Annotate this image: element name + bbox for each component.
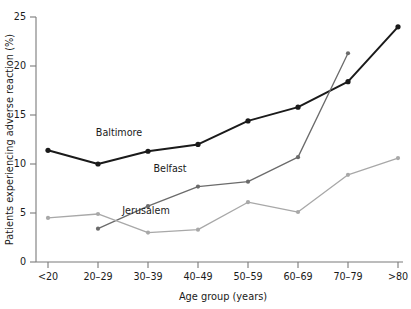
series-belfast — [96, 51, 350, 231]
chart-figure: 0510152025 Patients experiencing adverse… — [0, 0, 411, 309]
y-tick-label: 15 — [14, 109, 26, 120]
x-tick-label: 20–29 — [83, 271, 112, 282]
series-line — [48, 158, 398, 232]
data-point — [96, 227, 100, 231]
y-axis-title: Patients experiencing adverse reaction (… — [4, 34, 15, 245]
x-tick-label: 70–79 — [333, 271, 362, 282]
x-tick-label: 50–59 — [233, 271, 262, 282]
data-point — [96, 212, 100, 216]
data-point — [195, 142, 200, 147]
x-axis-title: Age group (years) — [179, 291, 267, 302]
series-jerusalem — [46, 156, 400, 235]
y-tick-label: 20 — [14, 60, 26, 71]
data-point — [95, 161, 100, 166]
data-point — [345, 79, 350, 84]
x-tick-label: <20 — [38, 271, 58, 282]
data-point — [145, 149, 150, 154]
series-label-baltimore: Baltimore — [96, 127, 143, 138]
x-tick-label: >80 — [388, 271, 408, 282]
y-tick-label: 0 — [20, 256, 26, 267]
series-baltimore — [45, 24, 400, 166]
y-tick-label: 25 — [14, 11, 26, 22]
y-tick-label: 5 — [20, 207, 26, 218]
x-tick-label: 30–39 — [133, 271, 162, 282]
data-point — [395, 24, 400, 29]
data-point — [295, 105, 300, 110]
data-point — [296, 210, 300, 214]
data-point — [245, 118, 250, 123]
y-tick-label: 10 — [14, 158, 26, 169]
data-point — [45, 148, 50, 153]
series-label-belfast: Belfast — [153, 163, 186, 174]
x-tick-label: 60–69 — [283, 271, 312, 282]
series-label-layer: BaltimoreBelfastJerusalem — [96, 127, 187, 216]
data-point — [296, 155, 300, 159]
series-line — [48, 27, 398, 164]
data-point — [46, 216, 50, 220]
series-label-jerusalem: Jerusalem — [121, 205, 170, 216]
data-point — [396, 156, 400, 160]
x-tick-group: <2020–2930–3940–4950–5960–6970–79>80 — [38, 262, 408, 282]
data-point — [246, 200, 250, 204]
x-axis: <2020–2930–3940–4950–5960–6970–79>80 Age… — [36, 262, 408, 302]
line-chart: 0510152025 Patients experiencing adverse… — [0, 0, 411, 309]
data-point — [146, 231, 150, 235]
data-point — [196, 184, 200, 188]
data-point — [246, 180, 250, 184]
x-tick-label: 40–49 — [183, 271, 212, 282]
y-tick-group: 0510152025 — [14, 11, 36, 267]
data-point — [346, 173, 350, 177]
data-point — [346, 51, 350, 55]
y-axis: 0510152025 Patients experiencing adverse… — [4, 11, 36, 267]
data-point — [196, 228, 200, 232]
